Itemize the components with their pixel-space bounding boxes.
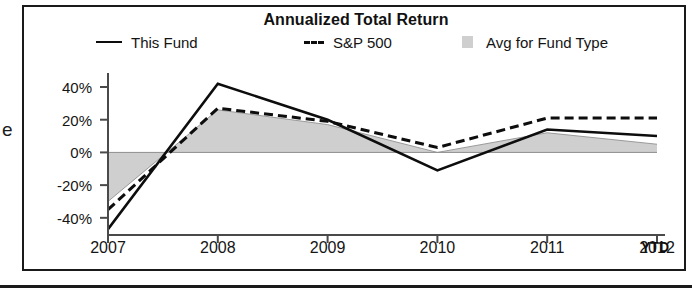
plot-area: 40%20%0%-20%-40% 20072008200920102011201… [24, 7, 688, 273]
figure-bottom-rule [0, 285, 692, 288]
y-tick-label: 40% [34, 79, 92, 96]
y-tick-label: 20% [34, 111, 92, 128]
chart-page: e Annualized Total Return This Fund S&P … [0, 0, 692, 297]
y-tick-label: 0% [34, 144, 92, 161]
chart-frame: Annualized Total Return This Fund S&P 50… [22, 5, 686, 271]
x-tick-label: 2008 [200, 239, 236, 257]
x-tick-label: 2009 [310, 239, 346, 257]
y-tick-label: -40% [34, 209, 92, 226]
clipped-edge-glyph: e [2, 120, 13, 139]
y-tick-label: -20% [34, 177, 92, 194]
x-tick-label: 2010 [420, 239, 456, 257]
x-tick-label: 2007 [90, 239, 126, 257]
x-axis-ytd-suffix: YTD [641, 239, 669, 255]
x-tick-label: 2011 [530, 239, 564, 257]
chart-plot-svg [24, 7, 688, 273]
